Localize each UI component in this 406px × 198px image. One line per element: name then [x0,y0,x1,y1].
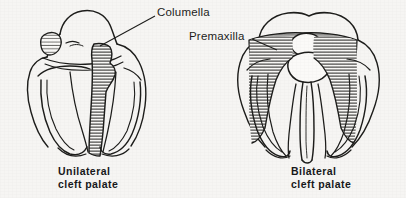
cleft-hatching-left [246,34,296,148]
label-premaxilla: Premaxilla [189,30,245,42]
caption-unilateral: Unilateral cleft palate [58,165,118,190]
caption-unilateral-line1: Unilateral [58,165,118,178]
panel-unilateral [27,11,145,164]
caption-bilateral-line2: cleft palate [291,178,351,191]
vomer-strip [300,82,303,160]
palatal-shelf-left [41,80,87,155]
caption-bilateral-line1: Bilateral [291,165,351,178]
caption-unilateral-line2: cleft palate [58,178,118,191]
label-columella: Columella [157,6,210,18]
panel-bilateral [238,13,379,163]
cleft-palate-figure: Columella Premaxilla Unilateral cleft pa… [0,0,406,198]
caption-bilateral: Bilateral cleft palate [291,165,351,190]
